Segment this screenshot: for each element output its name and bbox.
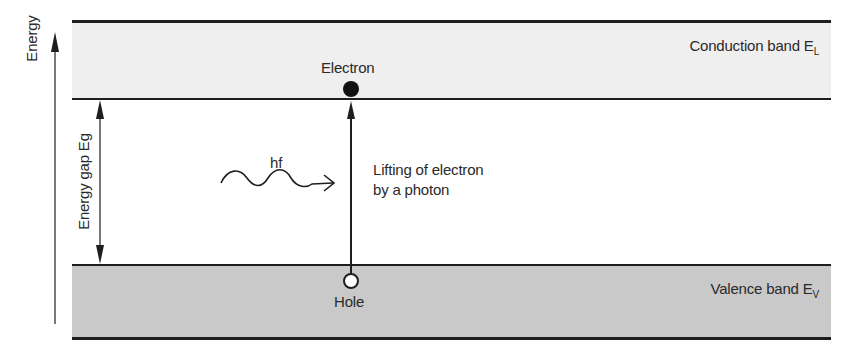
transition-label-line2: by a photon bbox=[373, 180, 483, 200]
photon-wave-icon bbox=[221, 170, 334, 191]
energy-axis-label: Energy bbox=[23, 14, 40, 64]
electron-dot bbox=[343, 81, 359, 97]
hole-circle bbox=[344, 274, 358, 288]
energy-gap-label: Energy gap Eg bbox=[75, 127, 92, 237]
transition-label-line1: Lifting of electron bbox=[373, 160, 483, 180]
energy-gap-arrow bbox=[96, 100, 104, 264]
electron-label: Electron bbox=[321, 59, 374, 76]
photon-label: hf bbox=[270, 154, 282, 171]
energy-axis-arrow bbox=[51, 32, 59, 324]
transition-label: Lifting of electron by a photon bbox=[373, 160, 483, 200]
hole-label: Hole bbox=[334, 293, 364, 310]
transition-arrow bbox=[347, 101, 355, 274]
